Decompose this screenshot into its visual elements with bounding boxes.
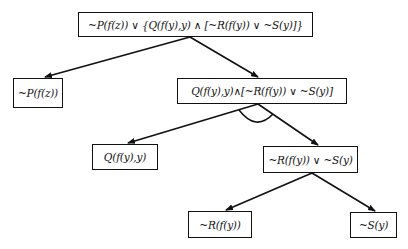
edge-root-left: [45, 37, 190, 77]
edge-right-rs: [258, 104, 318, 145]
node-r: ~R(f(y)): [188, 211, 252, 238]
node-left: ~P(f(z)): [13, 78, 63, 108]
node-rs: ~R(f(y)) ∨ ~S(y): [263, 146, 358, 173]
edge-rs-s: [312, 173, 375, 211]
node-root: ~P(f(z)) ∨ {Q(f(y),y) ∧ [~R(f(y)) ∨ ~S(y…: [78, 12, 313, 37]
node-q: Q(f(y),y): [92, 144, 158, 170]
edge-right-q: [128, 104, 258, 143]
edge-root-right: [190, 37, 258, 77]
and-connector-arc: [239, 110, 273, 122]
edge-rs-r: [226, 173, 312, 210]
node-right: Q(f(y),y)∧[~R(f(y)) ∨ ~S(y)]: [177, 78, 347, 104]
node-s: ~S(y): [350, 212, 397, 238]
